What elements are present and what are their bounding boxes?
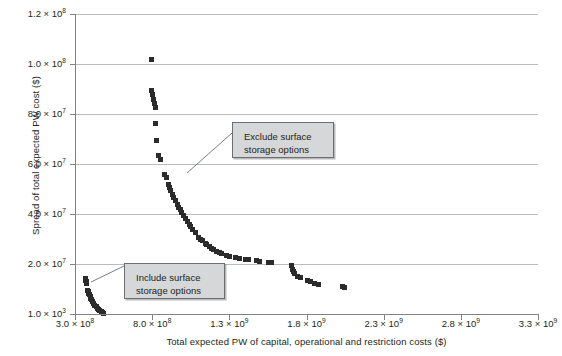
annotation-callout-include-callout: Include surface storage options: [124, 263, 225, 299]
annotation-leader-line: [91, 266, 124, 282]
annotation-callout-exclude-callout: Exclude surface storage options: [232, 122, 334, 158]
annotation-leader-line: [187, 133, 232, 173]
